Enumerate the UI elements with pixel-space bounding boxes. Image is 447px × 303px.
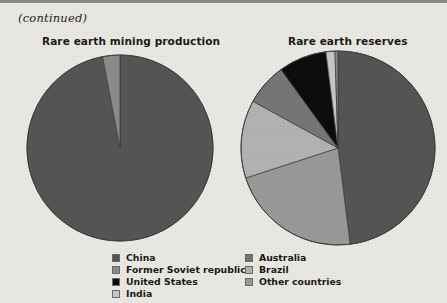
chart-title-mining-production: Rare earth mining production — [42, 35, 220, 47]
legend-item-label: Former Soviet republics — [126, 264, 251, 276]
pie-chart-mining-production — [22, 50, 218, 246]
legend-item-label: United States — [126, 276, 198, 288]
legend-item: Other countries — [245, 276, 341, 288]
legend-item-label: India — [126, 288, 152, 300]
legend-swatch-brazil — [245, 266, 253, 274]
legend-column-right: AustraliaBrazilOther countries — [245, 252, 341, 288]
pie-svg-reserves — [236, 46, 440, 250]
legend-item: Brazil — [245, 264, 341, 276]
legend-column-left: ChinaFormer Soviet republicsUnited State… — [112, 252, 251, 300]
legend-swatch-united-states — [112, 278, 120, 286]
pie-svg-mining-production — [22, 50, 218, 246]
pie-slice — [338, 51, 435, 244]
legend-swatch-australia — [245, 254, 253, 262]
chart-legend: ChinaFormer Soviet republicsUnited State… — [112, 252, 372, 300]
legend-item: India — [112, 288, 251, 300]
page-top-rule — [0, 0, 447, 3]
pie-slices-reserves — [241, 51, 435, 245]
legend-swatch-india — [112, 290, 120, 298]
legend-item-label: China — [126, 252, 156, 264]
legend-item: Former Soviet republics — [112, 264, 251, 276]
legend-item: Australia — [245, 252, 341, 264]
legend-item: United States — [112, 276, 251, 288]
continued-note: (continued) — [18, 11, 87, 25]
legend-item: China — [112, 252, 251, 264]
legend-item-label: Australia — [259, 252, 306, 264]
page-canvas: (continued) Rare earth mining production… — [0, 0, 447, 303]
pie-chart-reserves — [236, 46, 440, 250]
legend-swatch-other-countries — [245, 278, 253, 286]
pie-slices-mining-production — [27, 55, 213, 241]
legend-item-label: Brazil — [259, 264, 289, 276]
legend-item-label: Other countries — [259, 276, 341, 288]
legend-swatch-china — [112, 254, 120, 262]
legend-swatch-former-soviet-republics — [112, 266, 120, 274]
